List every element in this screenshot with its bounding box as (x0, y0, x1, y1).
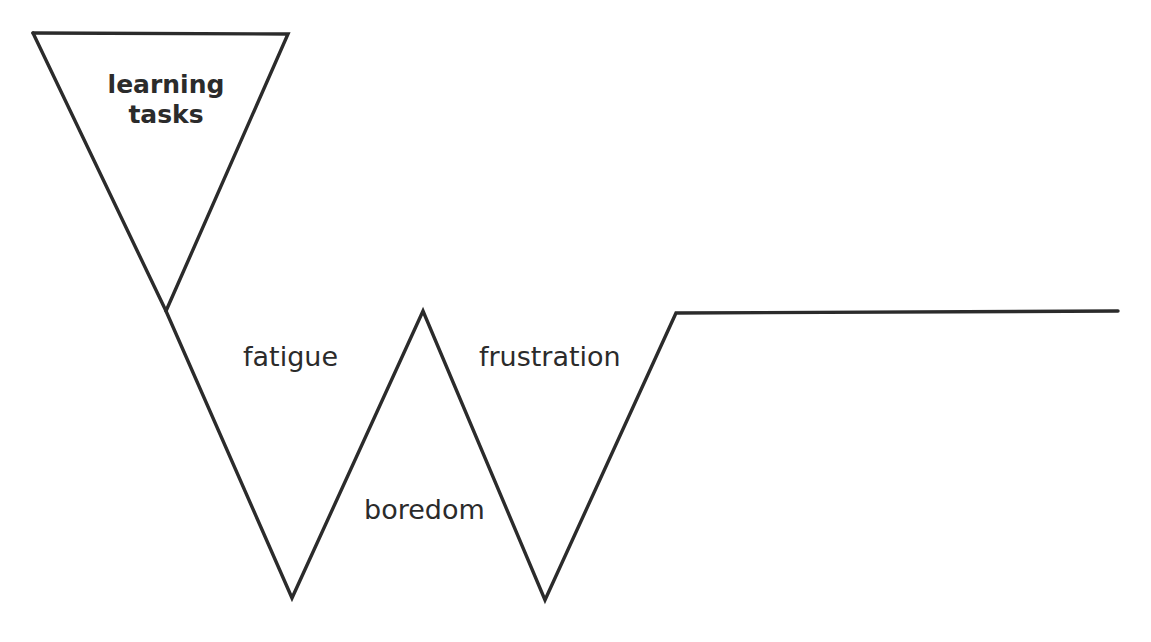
label-fatigue: fatigue (243, 341, 338, 373)
label-learning-tasks: learning tasks (84, 70, 248, 129)
label-frustration: frustration (479, 341, 621, 373)
label-boredom: boredom (364, 494, 485, 526)
diagram-canvas: learning tasks fatigue boredom frustrati… (0, 0, 1151, 642)
